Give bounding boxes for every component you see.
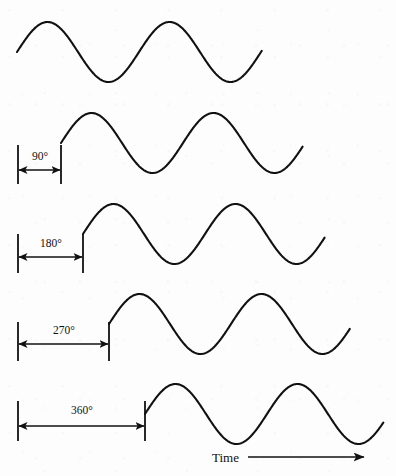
phase-label-90: 90° (32, 150, 49, 162)
phase-dimension-270: 270° (18, 322, 109, 361)
sine-wave-270 (109, 294, 350, 354)
waves-group (17, 22, 383, 444)
dimension-annotations-group: 90°180°270°360° (18, 145, 145, 441)
phase-dimension-360: 360° (18, 401, 145, 441)
sine-wave-360 (145, 384, 383, 444)
sine-wave-0 (17, 22, 262, 82)
sine-wave-90 (61, 113, 303, 173)
time-axis-group: Time (212, 450, 364, 465)
phase-label-360: 360° (71, 404, 93, 416)
phase-dimension-90: 90° (18, 145, 61, 184)
sine-wave-phase-figure: 90°180°270°360° Time (0, 0, 396, 476)
sine-wave-180 (83, 204, 325, 264)
time-axis-label: Time (212, 450, 239, 465)
phase-label-180: 180° (40, 237, 62, 249)
phase-dimension-180: 180° (18, 234, 83, 273)
phase-label-270: 270° (53, 324, 75, 336)
figure-canvas: 90°180°270°360° Time (0, 0, 396, 476)
